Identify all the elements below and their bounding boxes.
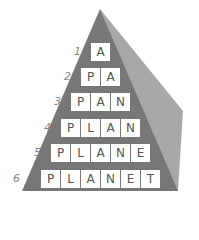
letter-cell: L [71,144,90,162]
letter-cell: N [121,119,140,137]
letter-cell: N [111,144,130,162]
letter-cell: P [61,119,80,137]
letter-cell: P [71,93,90,111]
word-row-1: A [91,43,110,61]
row-number-6: 6 [8,170,20,188]
row-number-1: 1 [69,43,81,61]
letter-cell: A [91,93,110,111]
letter-cell: P [81,68,100,86]
letter-cell: E [121,170,140,188]
letter-cell: A [101,119,120,137]
word-row-5: P L A N E [51,144,150,162]
row-number-3: 3 [49,93,61,111]
letter-cell: A [91,144,110,162]
letter-cell: N [101,170,120,188]
letter-cell: A [81,170,100,188]
word-row-6: P L A N E T [41,170,160,188]
letter-cell: P [41,170,60,188]
word-row-4: P L A N [61,119,140,137]
letter-cell: A [101,68,120,86]
letter-cell: T [141,170,160,188]
row-number-5: 5 [29,144,41,162]
letter-cell: P [51,144,70,162]
word-row-3: P A N [71,93,130,111]
letter-cell: L [81,119,100,137]
row-number-2: 2 [59,68,71,86]
letter-cell: E [131,144,150,162]
letter-cell: N [111,93,130,111]
row-number-4: 4 [39,119,51,137]
letter-cell: L [61,170,80,188]
word-row-2: P A [81,68,120,86]
letter-cell: A [91,43,110,61]
